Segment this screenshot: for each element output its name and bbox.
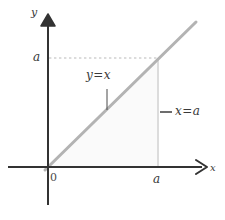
x-axis-label: x — [210, 163, 216, 173]
origin-label: 0 — [50, 172, 57, 183]
figure-canvas: y x a a 0 y=x x=a — [0, 0, 225, 220]
y-axis-arrow-icon — [41, 14, 55, 26]
annotation-y-equals-x: y=x — [86, 69, 111, 81]
y-tick-label-a: a — [33, 51, 40, 63]
y-axis-label: y — [31, 7, 37, 18]
x-tick-label-a: a — [153, 173, 160, 185]
annotation-x-equals-a: x=a — [175, 105, 200, 117]
